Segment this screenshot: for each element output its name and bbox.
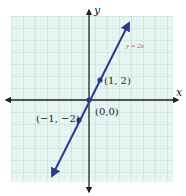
point-label-1-2: (1, 2) (104, 75, 131, 86)
grid-lines (11, 16, 173, 182)
point-1-2 (97, 77, 102, 82)
point-0-0 (86, 97, 91, 102)
point-label-0-0: (0,0) (95, 106, 119, 117)
y-axis-label: y (93, 4, 101, 17)
equation-label: y = 2x (125, 42, 145, 50)
x-axis-label: x (176, 86, 183, 99)
point-label-minus1-minus2: (−1, −2) (36, 113, 80, 124)
coordinate-graph: x y (1, 2) (0,0) (−1, −2) y = 2x (0, 0, 186, 196)
